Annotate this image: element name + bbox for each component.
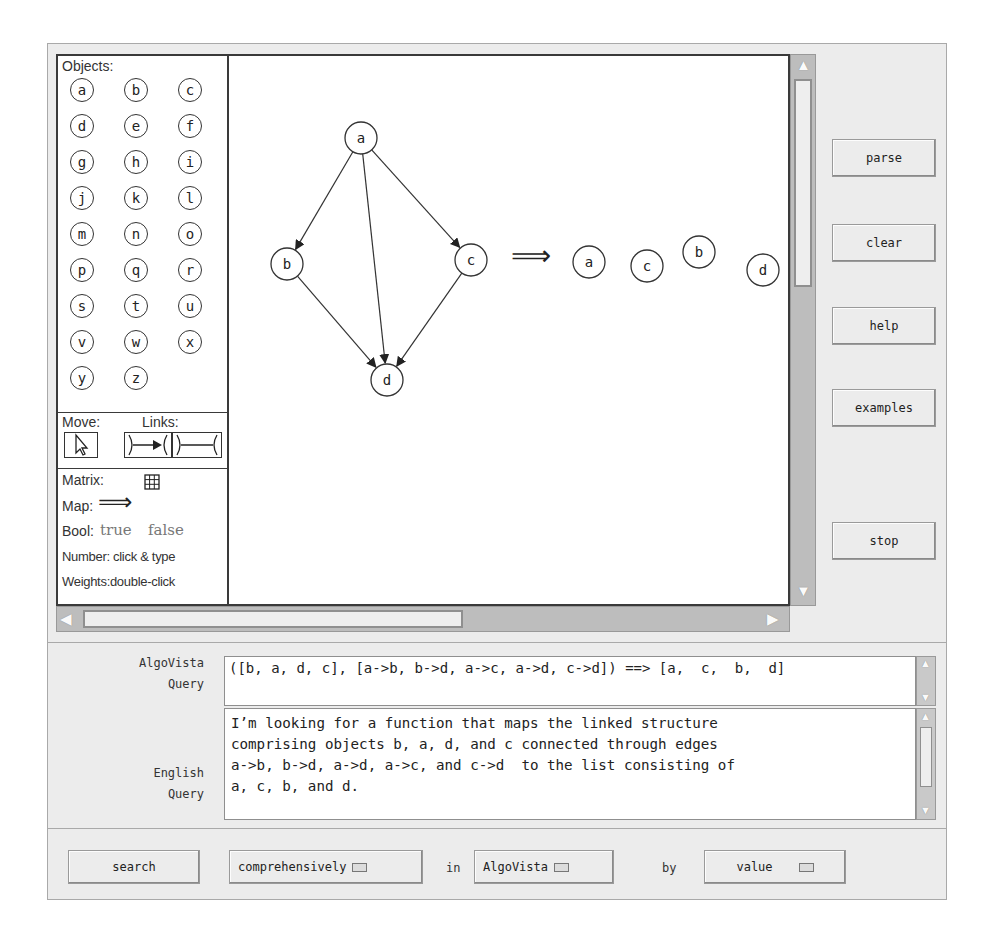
vertical-scroll-thumb[interactable] [794, 79, 812, 287]
palette-object-f[interactable]: f [178, 114, 202, 138]
algovista-query-label-line2: Query [64, 677, 204, 691]
svg-text:a: a [585, 254, 593, 270]
result-node-c[interactable]: c [631, 250, 663, 282]
links-label: Links: [142, 414, 179, 430]
svg-text:b: b [283, 256, 291, 272]
edge-a-d[interactable] [363, 154, 385, 363]
scroll-down-arrow-icon[interactable]: ▼ [920, 692, 931, 703]
palette-object-s[interactable]: s [70, 294, 94, 318]
in-label: in [446, 861, 460, 875]
algovista-query-input[interactable]: ([b, a, d, c], [a->b, b->d, a->c, a->d, … [224, 656, 916, 706]
scroll-up-arrow-icon[interactable]: ▲ [920, 658, 931, 669]
english-query-scrollbar[interactable]: ▲ ▼ [916, 708, 936, 820]
clear-button[interactable]: clear [832, 224, 936, 262]
english-query-label-line2: Query [64, 787, 204, 801]
palette-object-e[interactable]: e [124, 114, 148, 138]
algovista-query-scrollbar[interactable]: ▲ ▼ [916, 656, 936, 706]
grid-matrix-icon [144, 474, 160, 490]
scroll-up-arrow-icon[interactable]: ▲ [920, 711, 931, 722]
english-scroll-thumb[interactable] [920, 727, 932, 787]
palette-object-g[interactable]: g [70, 150, 94, 174]
english-query-text[interactable]: I’m looking for a function that maps the… [224, 708, 916, 820]
move-tool-button[interactable] [64, 432, 98, 458]
directed-link-icon [125, 433, 171, 457]
source-select[interactable]: AlgoVista [474, 850, 614, 884]
horizontal-scroll-thumb[interactable] [83, 610, 463, 628]
palette-object-t[interactable]: t [124, 294, 148, 318]
english-line: a->b, b->d, a->d, a->c, and c->d to the … [231, 755, 909, 776]
pointer-arrow-icon [65, 433, 97, 457]
scroll-right-arrow-icon[interactable]: ▶ [767, 611, 779, 626]
help-button[interactable]: help [832, 307, 936, 345]
algovista-query-label-line1: AlgoVista [64, 656, 204, 670]
canvas-vertical-scrollbar[interactable]: ▲ ▼ [790, 54, 816, 606]
palette-object-v[interactable]: v [70, 330, 94, 354]
option-menu-indicator-icon [799, 863, 814, 872]
palette-object-n[interactable]: n [124, 222, 148, 246]
bool-false-tool[interactable]: false [148, 521, 184, 539]
section-separator [48, 642, 946, 643]
result-node-d[interactable]: d [747, 254, 779, 286]
palette-object-h[interactable]: h [124, 150, 148, 174]
undirected-link-tool-button[interactable] [172, 432, 222, 458]
palette-object-b[interactable]: b [124, 78, 148, 102]
english-line: a, c, b, and d. [231, 776, 909, 797]
bool-label: Bool: [62, 523, 94, 539]
drawing-canvas[interactable]: abcdacbd ⟹ [228, 54, 790, 606]
palette-object-y[interactable]: y [70, 366, 94, 390]
palette-object-l[interactable]: l [178, 186, 202, 210]
english-query-label-line1: English [64, 766, 204, 780]
canvas-horizontal-scrollbar[interactable]: ◀ ▶ [56, 606, 790, 632]
bool-true-tool[interactable]: true [100, 521, 132, 539]
svg-text:d: d [383, 372, 391, 388]
palette-object-a[interactable]: a [70, 78, 94, 102]
edge-a-b[interactable] [296, 152, 353, 250]
matrix-tool[interactable] [144, 474, 160, 494]
palette-object-r[interactable]: r [178, 258, 202, 282]
edge-c-d[interactable] [397, 273, 462, 366]
palette-object-z[interactable]: z [124, 366, 148, 390]
palette-divider [58, 412, 227, 413]
object-palette: Objects: abcdefghijklmnopqrstuvwxyz Move… [56, 54, 228, 606]
result-node-b[interactable]: b [683, 236, 715, 268]
parse-button[interactable]: parse [832, 139, 936, 177]
move-label: Move: [62, 414, 100, 430]
search-button[interactable]: search [68, 850, 200, 884]
palette-object-i[interactable]: i [178, 150, 202, 174]
examples-button[interactable]: examples [832, 389, 936, 427]
palette-object-p[interactable]: p [70, 258, 94, 282]
graph-node-a[interactable]: a [345, 122, 377, 154]
palette-object-c[interactable]: c [178, 78, 202, 102]
palette-object-o[interactable]: o [178, 222, 202, 246]
stop-button[interactable]: stop [832, 522, 936, 560]
palette-object-q[interactable]: q [124, 258, 148, 282]
option-menu-indicator-icon [352, 863, 367, 872]
palette-object-j[interactable]: j [70, 186, 94, 210]
graph-node-c[interactable]: c [455, 244, 487, 276]
source-select-value: AlgoVista [483, 860, 548, 874]
palette-object-k[interactable]: k [124, 186, 148, 210]
edge-b-d[interactable] [297, 276, 375, 367]
edge-a-c[interactable] [372, 150, 460, 247]
scroll-left-arrow-icon[interactable]: ◀ [60, 611, 72, 626]
mode-select[interactable]: comprehensively [229, 850, 423, 884]
scroll-up-arrow-icon[interactable]: ▲ [796, 57, 811, 72]
palette-object-d[interactable]: d [70, 114, 94, 138]
graph-drawing: abcdacbd [229, 56, 789, 604]
graph-node-b[interactable]: b [271, 248, 303, 280]
svg-text:c: c [467, 252, 475, 268]
palette-object-u[interactable]: u [178, 294, 202, 318]
palette-object-m[interactable]: m [70, 222, 94, 246]
svg-text:c: c [643, 258, 651, 274]
map-arrow-symbol: ⟹ [511, 242, 551, 270]
scroll-down-arrow-icon[interactable]: ▼ [796, 583, 811, 598]
by-select[interactable]: value [704, 850, 846, 884]
scroll-down-arrow-icon[interactable]: ▼ [920, 805, 931, 816]
directed-link-tool-button[interactable] [124, 432, 172, 458]
result-node-a[interactable]: a [573, 246, 605, 278]
algovista-window: Objects: abcdefghijklmnopqrstuvwxyz Move… [47, 43, 947, 900]
palette-object-x[interactable]: x [178, 330, 202, 354]
map-arrow-tool[interactable]: ⟹ [98, 490, 132, 514]
palette-object-w[interactable]: w [124, 330, 148, 354]
graph-node-d[interactable]: d [371, 364, 403, 396]
